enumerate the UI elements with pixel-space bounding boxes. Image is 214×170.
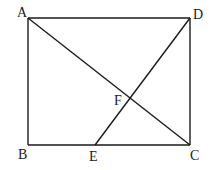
label-f: F [114,93,122,108]
label-a: A [17,5,28,20]
label-c: C [190,148,199,163]
label-d: D [193,7,203,22]
label-b: B [18,147,27,162]
geometry-diagram: A D B E C F [0,0,214,170]
label-e: E [89,149,98,164]
